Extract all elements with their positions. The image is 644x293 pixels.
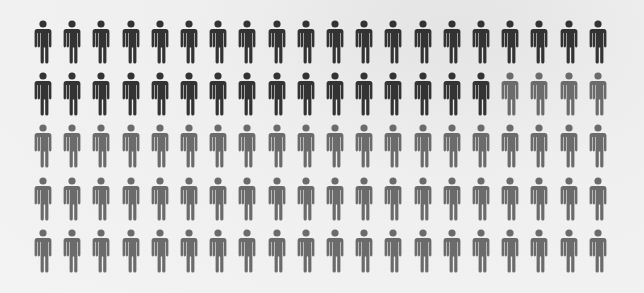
- person-icon: [297, 124, 315, 168]
- person-icon: [501, 124, 519, 168]
- person-icon: [92, 20, 110, 64]
- person-icon: [151, 229, 169, 273]
- person-icon: [268, 20, 286, 64]
- person-icon: [472, 229, 490, 273]
- person-icon: [122, 229, 140, 273]
- person-icon: [560, 229, 578, 273]
- person-icon: [443, 229, 461, 273]
- person-icon: [297, 229, 315, 273]
- person-icon: [530, 229, 548, 273]
- person-icon: [180, 20, 198, 64]
- person-icon: [589, 177, 607, 221]
- person-icon: [209, 124, 227, 168]
- person-icon: [384, 124, 402, 168]
- person-icon: [560, 177, 578, 221]
- person-icon: [238, 229, 256, 273]
- person-icon: [414, 124, 432, 168]
- person-icon: [63, 124, 81, 168]
- person-icon: [122, 20, 140, 64]
- person-icon: [472, 124, 490, 168]
- person-icon: [355, 20, 373, 64]
- person-icon: [238, 124, 256, 168]
- person-icon: [560, 124, 578, 168]
- person-icon: [443, 124, 461, 168]
- person-icon: [501, 229, 519, 273]
- person-icon: [384, 20, 402, 64]
- person-icon: [92, 124, 110, 168]
- person-icon: [297, 177, 315, 221]
- person-icon: [151, 72, 169, 116]
- person-icon: [414, 177, 432, 221]
- person-icon: [34, 124, 52, 168]
- person-icon: [530, 124, 548, 168]
- person-icon: [92, 229, 110, 273]
- person-icon: [472, 177, 490, 221]
- person-icon: [589, 72, 607, 116]
- person-icon: [63, 20, 81, 64]
- person-icon: [472, 72, 490, 116]
- person-icon: [414, 229, 432, 273]
- person-icon: [92, 177, 110, 221]
- person-icon: [34, 72, 52, 116]
- person-icon: [326, 72, 344, 116]
- person-icon: [560, 20, 578, 64]
- person-icon: [268, 229, 286, 273]
- person-icon: [180, 229, 198, 273]
- person-icon: [63, 177, 81, 221]
- person-icon: [443, 177, 461, 221]
- person-icon: [414, 72, 432, 116]
- person-icon: [180, 177, 198, 221]
- person-icon: [268, 177, 286, 221]
- person-icon: [384, 229, 402, 273]
- person-icon: [530, 20, 548, 64]
- person-icon: [472, 20, 490, 64]
- person-icon: [384, 72, 402, 116]
- pictogram-chart: [0, 0, 644, 293]
- person-icon: [443, 72, 461, 116]
- person-icon: [209, 177, 227, 221]
- person-icon: [238, 20, 256, 64]
- person-icon: [180, 124, 198, 168]
- person-icon: [501, 177, 519, 221]
- person-icon: [530, 72, 548, 116]
- person-icon: [209, 229, 227, 273]
- person-icon: [122, 72, 140, 116]
- person-icon: [180, 72, 198, 116]
- person-icon: [268, 124, 286, 168]
- person-icon: [326, 124, 344, 168]
- person-icon: [326, 177, 344, 221]
- person-icon: [355, 72, 373, 116]
- person-icon: [209, 72, 227, 116]
- person-icon: [151, 124, 169, 168]
- person-icon: [34, 20, 52, 64]
- person-icon: [151, 177, 169, 221]
- person-icon: [151, 20, 169, 64]
- person-icon: [326, 20, 344, 64]
- person-icon: [560, 72, 578, 116]
- person-icon: [238, 72, 256, 116]
- person-icon: [122, 177, 140, 221]
- person-icon: [326, 229, 344, 273]
- person-icon: [63, 229, 81, 273]
- person-icon: [384, 177, 402, 221]
- person-icon: [443, 20, 461, 64]
- person-icon: [355, 177, 373, 221]
- person-icon: [268, 72, 286, 116]
- person-icon: [297, 72, 315, 116]
- person-icon: [34, 229, 52, 273]
- person-icon: [589, 124, 607, 168]
- person-icon: [122, 124, 140, 168]
- person-icon: [530, 177, 548, 221]
- person-icon: [589, 229, 607, 273]
- person-icon: [34, 177, 52, 221]
- person-icon: [355, 124, 373, 168]
- person-icon: [355, 229, 373, 273]
- person-icon: [501, 72, 519, 116]
- person-icon: [501, 20, 519, 64]
- person-icon: [238, 177, 256, 221]
- person-icon: [414, 20, 432, 64]
- person-icon: [92, 72, 110, 116]
- person-icon: [209, 20, 227, 64]
- person-icon: [63, 72, 81, 116]
- person-icon: [297, 20, 315, 64]
